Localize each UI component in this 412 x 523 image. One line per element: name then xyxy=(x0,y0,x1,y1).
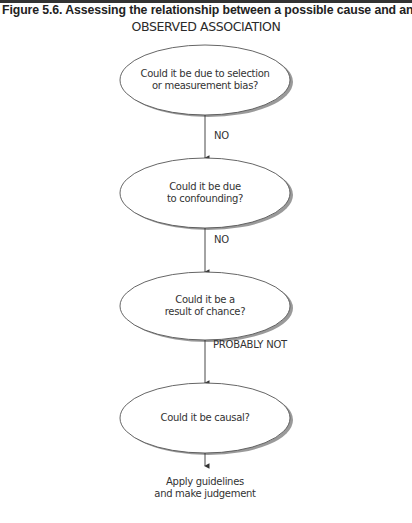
edge-label-1: NO xyxy=(214,130,229,141)
edge-label-3: PROBABLY NOT xyxy=(213,339,287,350)
node-2-text: Could it be due to confounding? xyxy=(120,181,290,205)
node-1-text: Could it be due to selection or measurem… xyxy=(120,68,290,92)
node-3-text: Could it be a result of chance? xyxy=(120,294,290,318)
end-text: Apply guidelines and make judgement xyxy=(120,476,290,500)
edge-label-2: NO xyxy=(214,234,229,245)
node-4-text: Could it be causal? xyxy=(120,412,290,424)
